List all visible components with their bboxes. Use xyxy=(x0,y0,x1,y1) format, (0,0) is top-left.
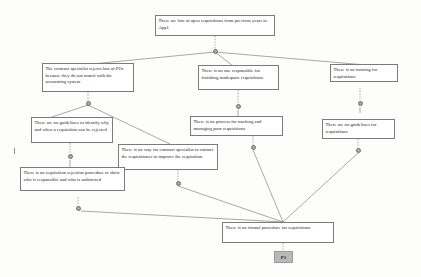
junction-no-way-contact[interactable] xyxy=(176,181,181,186)
node-no-training[interactable]: There is no training for requisitions xyxy=(330,64,398,82)
edge-process-tracking-to-formal xyxy=(253,150,283,222)
node-contract-specialist-rejects[interactable]: The contract specialist rejects lots of … xyxy=(42,63,134,92)
edge-top-to-no-one-responsible xyxy=(215,52,233,66)
junction-rejection-procedure[interactable] xyxy=(76,206,81,211)
node-top-effect[interactable]: There are lots of open requisitions from… xyxy=(155,15,275,36)
node-no-process-tracking[interactable]: There is no process for tracking and man… xyxy=(190,116,283,136)
node-no-guidelines-requisitions[interactable]: There are no guidelines for requisitions xyxy=(322,119,395,139)
node-no-way-contact[interactable]: There is no way for contract specialist … xyxy=(118,144,218,170)
root-cause-badge-p1[interactable]: P1 xyxy=(274,251,293,263)
junction-process-tracking[interactable] xyxy=(251,145,256,150)
junction-no-one-responsible[interactable] xyxy=(236,104,241,109)
node-no-guidelines-identify[interactable]: There are no guidelines to identify why … xyxy=(31,117,113,143)
edge-rejection-procedure-to-formal xyxy=(81,211,283,222)
junction-top-effect[interactable] xyxy=(213,49,218,54)
edge-guidelines-requisitions-to-formal xyxy=(283,153,358,222)
edge-cs-to-no-guidelines-identify xyxy=(52,105,88,117)
junction-no-training[interactable] xyxy=(358,101,363,106)
junction-guidelines-requisitions[interactable] xyxy=(356,148,361,153)
current-reality-tree-diagram: There are lots of open requisitions from… xyxy=(0,0,421,277)
edge-no-way-contact-to-formal xyxy=(178,186,283,222)
node-no-rejection-procedure[interactable]: There is no requisition rejection proced… xyxy=(20,167,125,191)
scan-artifact-mark xyxy=(14,148,15,154)
junction-guidelines-identify[interactable] xyxy=(68,154,73,159)
node-no-formal-procedure[interactable]: There is no formal procedure for requisi… xyxy=(222,222,334,243)
junction-contract-specialist[interactable] xyxy=(86,101,91,106)
node-no-one-responsible[interactable]: There is no one responsible for finishin… xyxy=(198,65,279,90)
